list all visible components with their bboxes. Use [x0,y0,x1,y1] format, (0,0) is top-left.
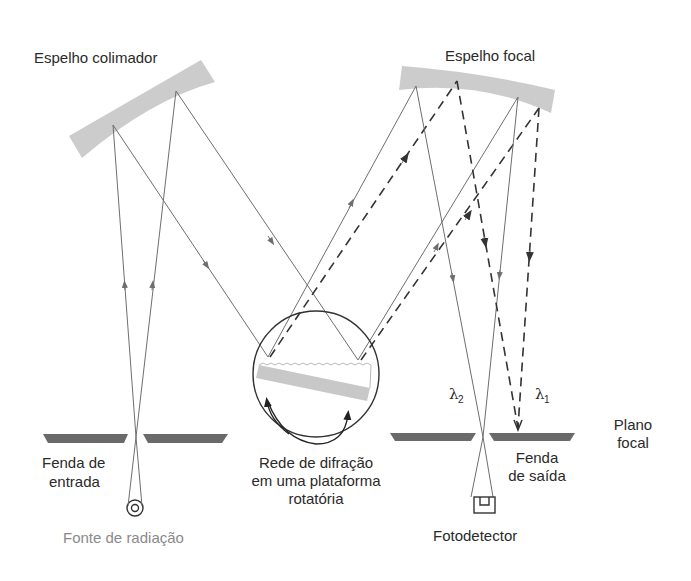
label-entrance-slit-1: Fenda de [42,454,105,471]
rotation-arrow-icon [268,402,348,444]
monochromator-diagram: Espelho colimador Espelho focal Fenda de… [0,0,691,581]
label-lambda1: λ 1 [535,385,550,405]
diffraction-grating [253,311,379,444]
svg-text:1: 1 [544,394,550,405]
label-focal-plane-1: Plano [614,416,652,433]
label-grating-3: rotatória [288,490,344,507]
label-entrance-slit-2: entrada [49,473,101,490]
collimating-mirror [69,60,215,158]
label-radiation-source: Fonte de radiação [63,529,184,546]
incident-ray-1 [113,125,136,437]
label-grating-1: Rede de difração [259,454,373,471]
label-grating-2: em uma plataforma [251,472,381,489]
entrance-slit-right-jaw [143,434,228,443]
exit-slit-left-jaw [390,433,476,441]
collimated-ray-2 [176,91,358,360]
svg-text:2: 2 [458,394,464,405]
photodetector-icon [474,497,495,513]
label-photodetector: Fotodetector [433,527,517,544]
label-exit-slit-1: Fenda [516,449,559,466]
label-exit-slit-2: de saída [508,467,566,484]
collimated-ray-1 [113,125,268,357]
label-collimating-mirror: Espelho colimador [34,49,157,66]
label-focal-plane-2: focal [617,434,649,451]
entrance-slit-left-jaw [43,434,128,443]
label-lambda2: λ 2 [449,385,464,405]
label-focal-mirror: Espelho focal [445,47,535,64]
focal-mirror [399,66,555,113]
radiation-source-icon [127,500,143,516]
incident-ray-2 [136,91,176,437]
exit-slit-right-jaw [489,433,575,441]
